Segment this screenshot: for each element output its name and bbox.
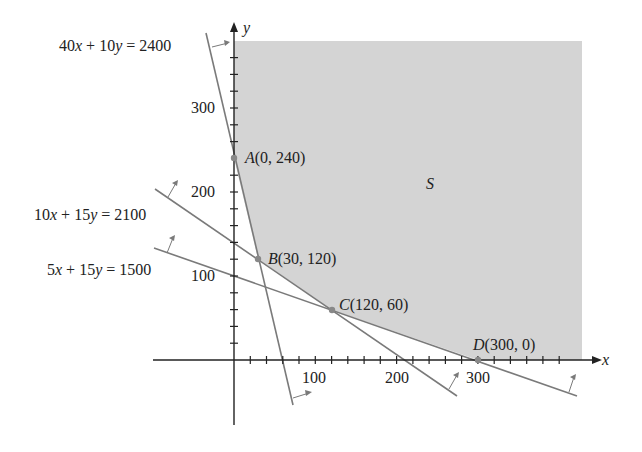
equation-label-2: 10x + 15y = 2100: [34, 207, 146, 223]
y-axis-label: y: [243, 20, 250, 36]
point-a-label: A(0, 240): [245, 150, 305, 166]
point-c-label: C(120, 60): [339, 297, 408, 313]
direction-arrow-icon: [168, 183, 176, 197]
equation-label-3: 5x + 15y = 1500: [47, 262, 151, 278]
x-tick-label-300: 300: [466, 370, 490, 386]
direction-arrow-icon: [569, 377, 574, 392]
x-axis-label: x: [602, 352, 609, 368]
direction-arrow-icon: [449, 375, 457, 389]
equation-label-1: 40x + 10y = 2400: [59, 38, 171, 54]
point-b: [255, 256, 261, 262]
x-tick-label-100: 100: [302, 370, 326, 386]
point-a: [231, 155, 237, 161]
x-tick-label-200: 200: [385, 370, 409, 386]
y-tick-label-100: 100: [191, 268, 215, 284]
y-tick-label-300: 300: [191, 100, 215, 116]
point-c: [329, 307, 335, 313]
y-tick-label-200: 200: [191, 184, 215, 200]
point-b-label: B(30, 120): [268, 251, 336, 267]
y-axis-arrow-icon: [230, 22, 238, 32]
point-d-label: D(300, 0): [473, 337, 535, 353]
direction-arrow-icon: [167, 238, 173, 253]
region-label-s: S: [426, 176, 434, 192]
x-axis-arrow-icon: [592, 356, 602, 364]
point-d: [475, 357, 481, 363]
direction-arrow-icon: [305, 390, 312, 396]
direction-arrow-icon: [224, 40, 230, 46]
